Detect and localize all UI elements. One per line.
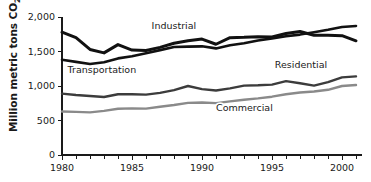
series-label-residential: Residential	[275, 59, 327, 70]
series-label-commercial: Commercial	[216, 102, 273, 113]
series-label-industrial: Industrial	[152, 20, 197, 31]
series-label-transportation: Transportation	[67, 64, 137, 75]
y-tick-label: 2,000	[28, 11, 55, 22]
x-tick-label: 2000	[330, 162, 354, 173]
y-tick-label: 1,500	[28, 46, 55, 57]
y-axis-ticks: 2,0001,5001,0005000	[28, 11, 62, 160]
chart-canvas: Million metric tons CO2 2,0001,5001,0005…	[0, 0, 371, 182]
x-tick-label: 1990	[190, 162, 214, 173]
x-tick-label: 1980	[50, 162, 74, 173]
x-axis-ticks: 19801985199019952000	[50, 155, 356, 173]
y-axis-title-text: Million metric tons CO	[7, 3, 19, 132]
y-axis-title: Million metric tons CO2	[7, 0, 22, 132]
co2-emissions-line-chart: Million metric tons CO2 2,0001,5001,0005…	[0, 0, 371, 182]
series-line-transportation	[62, 26, 356, 64]
y-axis-title-group: Million metric tons CO2	[7, 0, 22, 132]
series-line-industrial	[62, 31, 356, 52]
y-tick-label: 0	[49, 149, 55, 160]
x-tick-label: 1995	[260, 162, 284, 173]
series-line-residential	[62, 76, 356, 97]
x-tick-label: 1985	[120, 162, 144, 173]
y-axis-title-subscript: 2	[13, 0, 22, 3]
y-tick-label: 1,000	[28, 80, 55, 91]
y-tick-label: 500	[37, 115, 55, 126]
